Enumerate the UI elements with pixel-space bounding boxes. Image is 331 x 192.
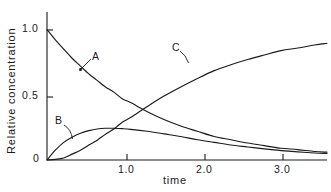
curve-label-c: C	[172, 41, 180, 53]
leader-line-b	[64, 125, 73, 139]
leader-dot-a	[79, 68, 82, 71]
y-tick-label-0-5: 0.5	[22, 89, 38, 101]
leader-line-a	[81, 59, 91, 69]
leader-line-c	[180, 51, 189, 63]
x-tick-label-3-0: 3.0	[274, 163, 290, 175]
curve-label-a: A	[92, 50, 99, 62]
x-tick-label-1-0: 1.0	[118, 163, 134, 175]
x-axis-title: time	[163, 174, 187, 186]
kinetics-chart-figure: Relative concentration 1.0 0.5 0 1.0 2.0…	[0, 0, 331, 192]
y-tick-label-0: 0	[33, 152, 39, 164]
curve-label-b: B	[55, 114, 62, 126]
x-tick-label-2-0: 2.0	[196, 163, 212, 175]
y-axis-title: Relative concentration	[5, 34, 17, 154]
y-tick-label-1-0: 1.0	[22, 22, 38, 34]
curve-b-path	[47, 128, 327, 160]
curve-a-path	[47, 30, 327, 153]
